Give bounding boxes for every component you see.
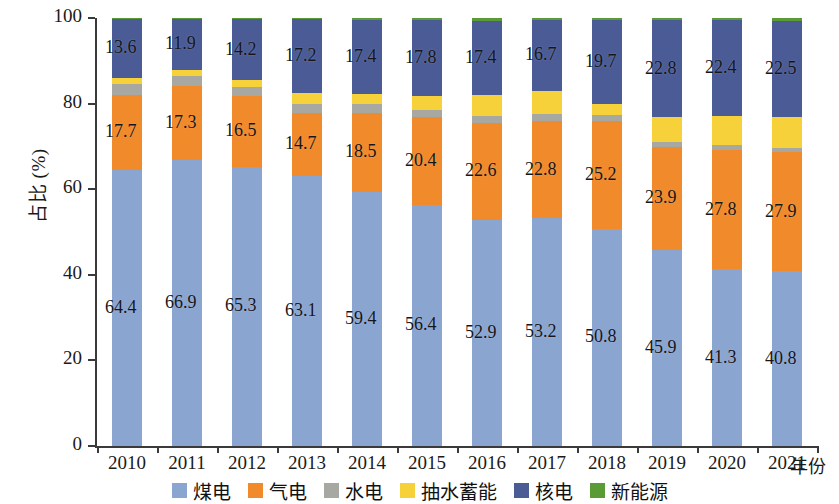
bar-value-label: 13.6 [105, 37, 137, 58]
y-tick-label: 20 [36, 347, 82, 369]
legend-label: 水电 [345, 477, 383, 504]
legend-swatch [172, 483, 187, 498]
bar-segment[interactable] [232, 87, 262, 96]
bar-group[interactable] [232, 18, 262, 446]
y-tick-mark [88, 359, 95, 361]
legend-label: 煤电 [193, 477, 231, 504]
bar-value-label: 23.9 [645, 187, 677, 208]
legend-label: 新能源 [611, 477, 668, 504]
bar-stack [112, 18, 142, 446]
x-tick-label: 2010 [97, 452, 157, 474]
bar-stack [712, 18, 742, 446]
y-tick-label: 80 [36, 91, 82, 113]
bar-segment[interactable] [172, 76, 202, 86]
bar-value-label: 17.7 [105, 121, 137, 142]
bar-group[interactable] [772, 18, 802, 446]
bar-group[interactable] [592, 18, 622, 446]
bar-value-label: 20.4 [405, 150, 437, 171]
bar-segment[interactable] [712, 116, 742, 145]
bar-group[interactable] [712, 18, 742, 446]
bar-segment[interactable] [112, 78, 142, 85]
bar-segment[interactable] [532, 91, 562, 114]
bar-value-label: 41.3 [705, 347, 737, 368]
bar-group[interactable] [352, 18, 382, 446]
bar-stack [532, 18, 562, 446]
bar-segment[interactable] [412, 96, 442, 110]
bar-value-label: 25.2 [585, 164, 617, 185]
y-tick-mark [88, 103, 95, 105]
bar-segment[interactable] [472, 95, 502, 116]
x-tick-label: 2012 [217, 452, 277, 474]
bar-group[interactable] [292, 18, 322, 446]
legend-item[interactable]: 抽水蓄能 [400, 477, 497, 504]
x-tick-label: 2020 [697, 452, 757, 474]
bar-value-label: 27.8 [705, 199, 737, 220]
bar-value-label: 11.9 [165, 33, 196, 54]
bar-segment[interactable] [292, 93, 322, 105]
x-axis-title: 年份 [790, 452, 826, 478]
bar-group[interactable] [112, 18, 142, 446]
bar-segment[interactable] [412, 110, 442, 117]
bar-segment[interactable] [352, 94, 382, 104]
bar-value-label: 19.7 [585, 51, 617, 72]
bar-stack [172, 18, 202, 446]
bar-value-label: 22.5 [765, 58, 797, 79]
bar-group[interactable] [652, 18, 682, 446]
bar-group[interactable] [172, 18, 202, 446]
bar-group[interactable] [472, 18, 502, 446]
bar-value-label: 22.4 [705, 57, 737, 78]
bar-stack [352, 18, 382, 446]
x-tick-label: 2015 [397, 452, 457, 474]
legend-swatch [590, 483, 605, 498]
bar-value-label: 17.2 [285, 45, 317, 66]
x-tick-label: 2017 [517, 452, 577, 474]
bar-group[interactable] [412, 18, 442, 446]
bar-segment[interactable] [112, 84, 142, 94]
x-tick-label: 2019 [637, 452, 697, 474]
bar-value-label: 18.5 [345, 141, 377, 162]
legend-item[interactable]: 煤电 [172, 477, 231, 504]
bar-stack [292, 18, 322, 446]
bar-value-label: 17.4 [465, 47, 497, 68]
bar-segment[interactable] [292, 104, 322, 113]
x-tick-label: 2011 [157, 452, 217, 474]
bar-stack [652, 18, 682, 446]
legend-label: 气电 [269, 477, 307, 504]
legend-item[interactable]: 新能源 [590, 477, 668, 504]
legend-swatch [324, 483, 339, 498]
bar-value-label: 64.4 [105, 297, 137, 318]
bar-stack [772, 18, 802, 446]
y-tick-label: 0 [36, 433, 82, 455]
legend-label: 抽水蓄能 [421, 477, 497, 504]
legend-swatch [248, 483, 263, 498]
legend-item[interactable]: 核电 [514, 477, 573, 504]
legend-swatch [400, 483, 415, 498]
plot-area: 64.417.713.666.917.311.965.316.514.263.1… [97, 18, 817, 446]
y-tick-label: 60 [36, 176, 82, 198]
bar-segment[interactable] [652, 117, 682, 141]
bar-stack [592, 18, 622, 446]
bar-value-label: 22.8 [645, 58, 677, 79]
bar-segment[interactable] [472, 116, 502, 123]
bar-value-label: 22.8 [525, 159, 557, 180]
bar-value-label: 52.9 [465, 322, 497, 343]
bar-value-label: 14.2 [225, 39, 257, 60]
bar-segment[interactable] [592, 104, 622, 115]
legend-item[interactable]: 水电 [324, 477, 383, 504]
bar-group[interactable] [532, 18, 562, 446]
bar-segment[interactable] [772, 117, 802, 148]
bar-segment[interactable] [232, 80, 262, 87]
bar-value-label: 16.7 [525, 44, 557, 65]
bar-value-label: 16.5 [225, 120, 257, 141]
bar-stack [232, 18, 262, 446]
bar-value-label: 27.9 [765, 201, 797, 222]
legend-item[interactable]: 气电 [248, 477, 307, 504]
bar-value-label: 14.7 [285, 133, 317, 154]
x-tick-label: 2018 [577, 452, 637, 474]
y-tick-mark [88, 188, 95, 190]
bar-value-label: 56.4 [405, 314, 437, 335]
bar-value-label: 22.6 [465, 160, 497, 181]
bar-value-label: 53.2 [525, 321, 557, 342]
bar-segment[interactable] [352, 104, 382, 112]
